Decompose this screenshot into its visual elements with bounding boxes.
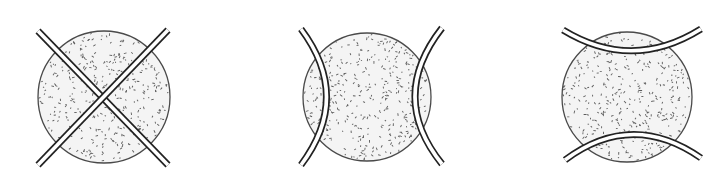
stipple-dot — [77, 109, 78, 110]
stipple-dot — [612, 94, 613, 96]
stipple-dot — [607, 61, 610, 62]
stipple-dot — [621, 83, 622, 85]
stipple-dot — [108, 69, 109, 70]
diagram-canvas — [0, 0, 719, 186]
stipple-dot — [404, 116, 405, 118]
stipple-dot — [67, 120, 69, 121]
stipple-dot — [329, 77, 330, 79]
stipple-dot — [48, 97, 50, 98]
stipple-dot — [651, 114, 652, 116]
stipple-dot — [126, 80, 128, 81]
stipple-dot — [360, 145, 361, 147]
stipple-dot — [360, 139, 361, 141]
stipple-dot — [378, 45, 380, 46]
panel-3 — [562, 29, 701, 162]
stipple-dot — [354, 39, 355, 41]
stipple-dot — [638, 91, 639, 93]
stipple-dot — [606, 54, 608, 55]
stipple-dot — [661, 147, 662, 148]
stipple-dot — [118, 126, 119, 128]
stipple-dot — [105, 134, 106, 136]
stipple-dot — [369, 140, 370, 143]
stipple-dot — [393, 123, 394, 126]
stipple-dot — [408, 98, 409, 99]
stipple-dot — [356, 45, 358, 46]
stipple-dot — [652, 154, 653, 156]
stipple-dot — [671, 74, 672, 76]
stipple-dot — [353, 138, 354, 139]
stipple-dot — [398, 150, 399, 152]
stipple-dot — [584, 114, 586, 115]
stipple-dot — [340, 90, 341, 91]
stipple-dot — [156, 86, 157, 88]
stipple-dot — [123, 57, 125, 58]
stipple-dot — [567, 116, 569, 117]
stipple-dot — [85, 155, 86, 157]
stipple-dot — [574, 68, 576, 69]
stipple-dot — [390, 92, 391, 93]
stipple-dot — [58, 116, 60, 117]
stipple-dot — [601, 144, 603, 145]
stipple-dot — [588, 124, 590, 125]
stipple-dot — [359, 58, 360, 60]
stipple-dot — [649, 118, 651, 119]
stipple-dot — [641, 96, 643, 97]
stipple-dot — [81, 92, 82, 93]
stipple-dot — [398, 143, 400, 144]
stipple-dot — [359, 54, 360, 57]
stipple-dot — [645, 156, 646, 158]
stipple-dot — [662, 62, 663, 64]
stipple-dot — [373, 61, 374, 64]
stipple-dot — [311, 70, 313, 71]
stipple-dot — [81, 55, 82, 57]
stipple-dot — [134, 101, 135, 103]
stipple-dot — [157, 85, 159, 86]
stipple-dot — [145, 68, 147, 69]
stipple-dot — [642, 69, 643, 71]
stipple-dot — [320, 93, 321, 96]
stipple-dot — [683, 82, 684, 84]
stipple-dot — [101, 35, 102, 36]
stipple-dot — [642, 149, 644, 150]
stipple-dot — [385, 58, 386, 60]
stipple-dot — [329, 138, 332, 139]
stipple-dot — [409, 54, 410, 55]
stipple-dot — [600, 71, 602, 72]
stipple-dot — [656, 143, 657, 144]
stipple-dot — [148, 97, 149, 98]
stipple-dot — [160, 118, 162, 119]
stipple-dot — [365, 156, 366, 157]
stipple-dot — [139, 126, 141, 127]
stipple-dot — [347, 44, 349, 45]
stipple-dot — [673, 70, 675, 71]
stipple-dot — [60, 99, 61, 101]
stipple-dot — [82, 57, 84, 58]
panel-2 — [301, 28, 442, 165]
stipple-dot — [122, 144, 123, 146]
stipple-dot — [396, 61, 397, 63]
stipple-dot — [378, 59, 379, 60]
stipple-dot — [119, 61, 121, 62]
stipple-dot — [624, 56, 626, 57]
panel-1 — [38, 30, 170, 165]
stipple-dot — [652, 101, 654, 102]
stipple-dot — [677, 86, 678, 89]
stipple-dot — [331, 139, 332, 140]
stipple-dot — [150, 66, 152, 67]
stipple-dot — [592, 95, 593, 97]
stipple-dot — [353, 95, 356, 96]
stipple-dot — [148, 63, 149, 65]
stipple-dot — [85, 59, 86, 60]
stipple-dot — [582, 132, 583, 134]
stipple-dot — [386, 98, 388, 99]
stipple-dot — [65, 112, 67, 113]
stipple-dot — [128, 63, 129, 65]
stipple-dot — [326, 130, 328, 131]
stipple-dot — [616, 128, 618, 129]
stipple-dot — [618, 152, 619, 155]
stipple-dot — [640, 90, 642, 91]
stipple-dot — [601, 126, 602, 128]
stipple-dot — [680, 124, 682, 125]
stipple-dot — [340, 59, 342, 60]
stipple-dot — [600, 148, 602, 149]
